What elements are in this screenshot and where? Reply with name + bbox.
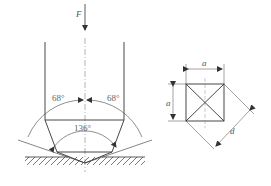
force-label: F xyxy=(75,9,82,19)
top-side-label: a xyxy=(202,58,207,68)
left-angle-label: 68° xyxy=(52,93,65,103)
left-side-label: a xyxy=(166,98,171,108)
dim-left-a xyxy=(168,84,186,121)
specimen-surface xyxy=(25,157,145,165)
diagonal-label: d xyxy=(230,126,235,136)
vickers-indenter-diagram: F 68° 68° 136° xyxy=(0,0,271,186)
apex-angle-label: 136° xyxy=(74,123,92,133)
right-angle-label: 68° xyxy=(107,93,120,103)
